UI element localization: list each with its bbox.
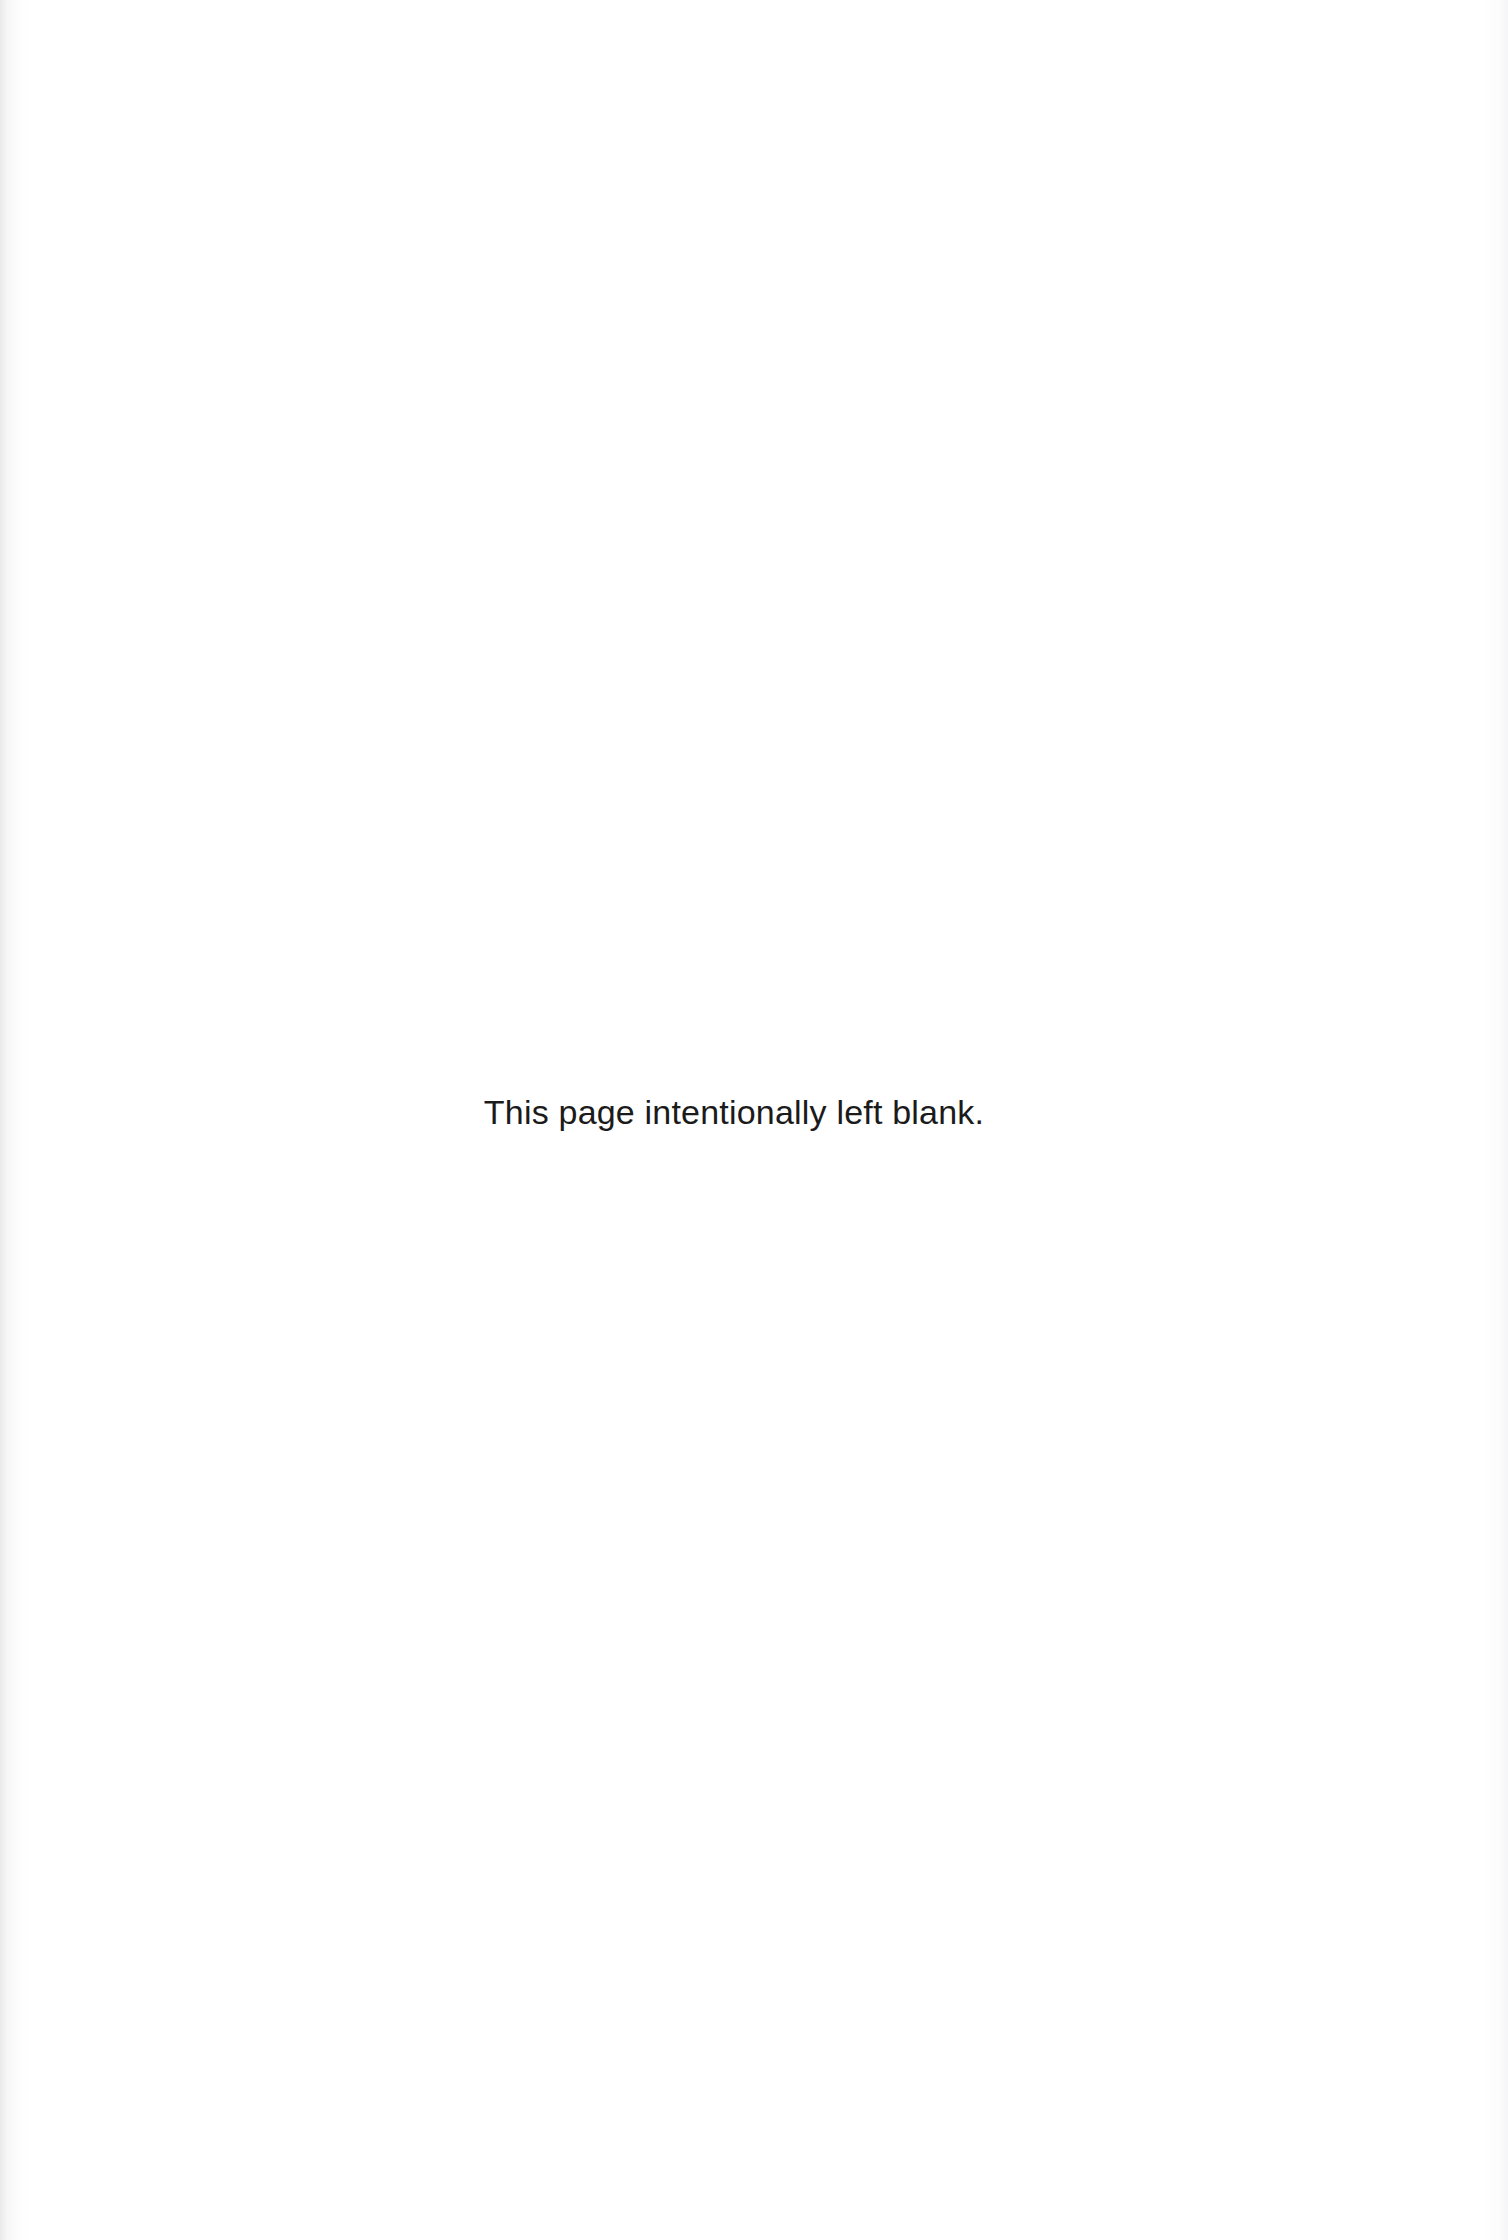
document-page: This page intentionally left blank.: [0, 0, 1508, 2240]
blank-page-notice: This page intentionally left blank.: [0, 1092, 1508, 1132]
